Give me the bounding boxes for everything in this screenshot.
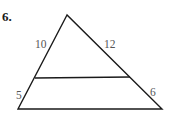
label-left-upper: 10 (35, 39, 47, 51)
triangle-diagram (0, 0, 170, 122)
outer-triangle (18, 15, 162, 109)
triangle-figure: 6. 10 12 5 6 (0, 0, 170, 122)
parallel-segment (35, 77, 130, 78)
label-right-lower: 6 (150, 87, 156, 99)
label-right-upper: 12 (104, 39, 116, 51)
label-left-lower: 5 (16, 90, 22, 102)
